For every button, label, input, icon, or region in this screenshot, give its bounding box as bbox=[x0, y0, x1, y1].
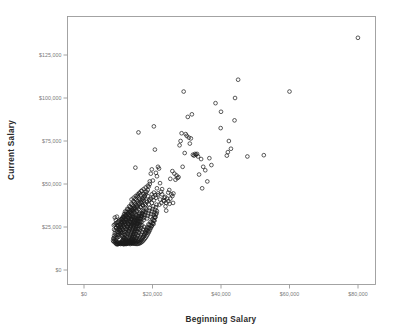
x-axis-ticks: $0$20,000$40,000$60,000$80,000 bbox=[81, 285, 368, 297]
data-point bbox=[164, 209, 168, 213]
data-point bbox=[179, 139, 183, 143]
data-point bbox=[233, 119, 237, 123]
data-point bbox=[199, 157, 203, 161]
data-point bbox=[178, 143, 182, 147]
data-point bbox=[180, 131, 184, 135]
data-point bbox=[225, 154, 229, 158]
data-point bbox=[219, 110, 223, 114]
data-point bbox=[155, 203, 159, 207]
data-point bbox=[203, 168, 207, 172]
data-point bbox=[227, 139, 231, 143]
data-point bbox=[164, 205, 168, 209]
data-point bbox=[214, 101, 218, 105]
data-point bbox=[134, 166, 138, 170]
data-point bbox=[182, 90, 186, 94]
data-point bbox=[219, 126, 223, 130]
data-point bbox=[356, 36, 360, 40]
data-point bbox=[229, 147, 233, 151]
data-point bbox=[186, 115, 190, 119]
data-point bbox=[233, 96, 237, 100]
data-point bbox=[149, 172, 153, 176]
data-point bbox=[205, 180, 209, 184]
data-point bbox=[200, 186, 204, 190]
y-axis-ticks: $0$25,000$50,000$75,000$100,000$125,000 bbox=[39, 52, 68, 273]
data-point bbox=[155, 186, 159, 190]
data-point bbox=[181, 165, 185, 169]
x-tick-label: $80,000 bbox=[348, 291, 368, 297]
data-point bbox=[201, 165, 205, 169]
x-axis-title: Beginning Salary bbox=[186, 315, 257, 324]
data-point bbox=[236, 78, 240, 82]
data-point bbox=[262, 153, 266, 157]
data-point bbox=[246, 155, 250, 159]
y-tick-label: $100,000 bbox=[39, 95, 62, 101]
y-tick-label: $50,000 bbox=[42, 181, 62, 187]
x-tick-label: $40,000 bbox=[211, 291, 231, 297]
data-point bbox=[171, 169, 175, 173]
x-tick-label: $60,000 bbox=[280, 291, 300, 297]
data-point bbox=[197, 173, 201, 177]
data-point bbox=[208, 156, 212, 160]
data-point bbox=[158, 198, 162, 202]
y-axis-title: Current Salary bbox=[7, 120, 16, 180]
data-point bbox=[171, 201, 175, 205]
chart-canvas: $0$25,000$50,000$75,000$100,000$125,000 … bbox=[0, 0, 393, 329]
data-points-layer bbox=[111, 36, 360, 246]
data-point bbox=[210, 163, 214, 167]
data-point bbox=[190, 112, 194, 116]
data-point bbox=[137, 131, 141, 135]
data-point bbox=[168, 177, 172, 181]
scatter-chart: $0$25,000$50,000$75,000$100,000$125,000 … bbox=[0, 0, 393, 329]
y-tick-label: $125,000 bbox=[39, 52, 62, 58]
x-tick-label: $20,000 bbox=[143, 291, 163, 297]
data-point bbox=[183, 151, 187, 155]
data-point bbox=[150, 168, 154, 172]
y-tick-label: $75,000 bbox=[42, 138, 62, 144]
y-tick-label: $25,000 bbox=[42, 224, 62, 230]
data-point bbox=[152, 125, 156, 129]
x-tick-label: $0 bbox=[81, 291, 87, 297]
data-point bbox=[158, 181, 162, 185]
data-point bbox=[288, 90, 292, 94]
data-point bbox=[188, 142, 192, 146]
data-point bbox=[154, 171, 158, 175]
data-point bbox=[153, 148, 157, 152]
y-tick-label: $0 bbox=[56, 267, 62, 273]
